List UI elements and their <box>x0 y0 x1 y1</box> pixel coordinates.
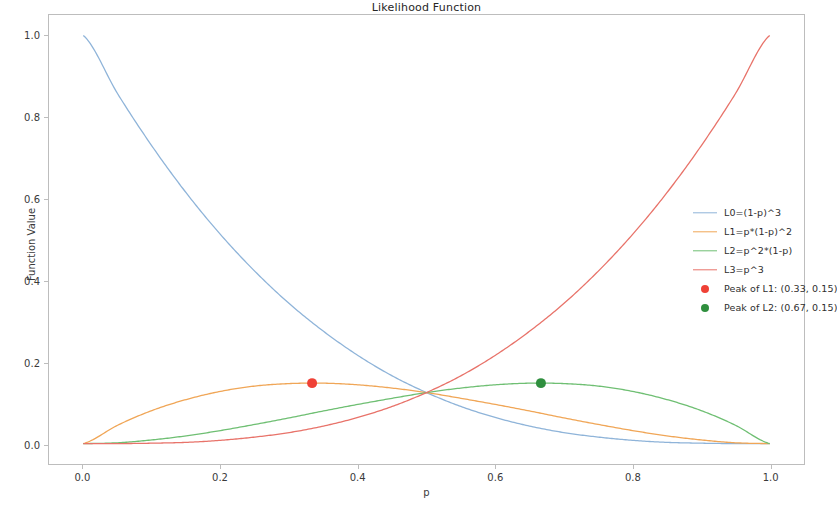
x-tick-mark <box>358 465 359 469</box>
x-tick-mark <box>495 465 496 469</box>
y-tick-label: 0.2 <box>6 357 40 368</box>
x-tick-label: 0.4 <box>350 472 366 483</box>
peak-marker <box>536 378 546 388</box>
peak-marker <box>307 378 317 388</box>
y-tick-mark <box>44 445 48 446</box>
x-tick-mark <box>771 465 772 469</box>
legend-item[interactable]: Peak of L2: (0.67, 0.15) <box>692 298 834 317</box>
legend-item[interactable]: L1=p*(1-p)^2 <box>692 222 834 241</box>
x-tick-mark <box>220 465 221 469</box>
legend-item[interactable]: L2=p^2*(1-p) <box>692 241 834 260</box>
legend: L0=(1-p)^3L1=p*(1-p)^2L2=p^2*(1-p)L3=p^3… <box>692 203 834 317</box>
legend-item[interactable]: L0=(1-p)^3 <box>692 203 834 222</box>
legend-item[interactable]: Peak of L1: (0.33, 0.15) <box>692 279 834 298</box>
legend-line-icon <box>692 226 718 238</box>
y-tick-mark <box>44 281 48 282</box>
legend-item-label: L0=(1-p)^3 <box>724 207 781 218</box>
x-tick-label: 0.6 <box>487 472 503 483</box>
legend-item-label: Peak of L2: (0.67, 0.15) <box>724 302 837 313</box>
curves-svg <box>49 15 804 464</box>
series-line <box>83 35 769 443</box>
y-axis-label: Function Value <box>26 190 37 300</box>
legend-item-label: L1=p*(1-p)^2 <box>724 226 792 237</box>
y-tick-mark <box>44 117 48 118</box>
legend-line-icon <box>692 245 718 257</box>
legend-line-icon <box>692 264 718 276</box>
legend-marker-icon <box>692 283 718 295</box>
figure-canvas: Likelihood Function 0.00.20.40.60.81.0 0… <box>0 0 837 510</box>
x-axis-label: p <box>48 487 805 498</box>
legend-marker-icon <box>692 302 718 314</box>
legend-item-label: L3=p^3 <box>724 264 764 275</box>
x-tick-mark <box>82 465 83 469</box>
legend-line-icon <box>692 207 718 219</box>
y-tick-mark <box>44 363 48 364</box>
y-tick-label: 1.0 <box>6 29 40 40</box>
y-tick-mark <box>44 35 48 36</box>
x-tick-label: 0.8 <box>625 472 641 483</box>
legend-item[interactable]: L3=p^3 <box>692 260 834 279</box>
page-title: Likelihood Function <box>48 1 805 14</box>
y-tick-label: 0.8 <box>6 111 40 122</box>
x-tick-label: 0.0 <box>74 472 90 483</box>
y-tick-label: 0.0 <box>6 439 40 450</box>
legend-item-label: L2=p^2*(1-p) <box>724 245 792 256</box>
series-line <box>83 35 769 443</box>
y-tick-mark <box>44 199 48 200</box>
x-tick-mark <box>633 465 634 469</box>
x-tick-label: 1.0 <box>763 472 779 483</box>
legend-item-label: Peak of L1: (0.33, 0.15) <box>724 283 837 294</box>
x-tick-label: 0.2 <box>212 472 228 483</box>
